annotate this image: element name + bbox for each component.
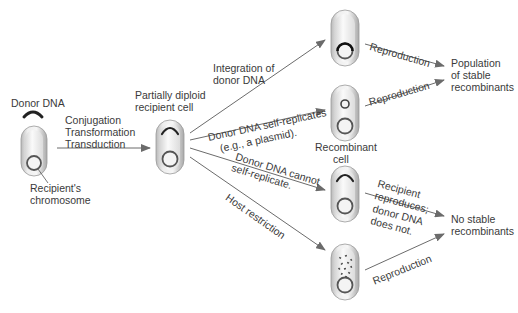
chromosome-icon (338, 199, 353, 214)
plasmid-icon (341, 100, 349, 108)
stable-outcome-label-1: Population (451, 57, 501, 69)
stable-outcome-label-2: of stable (451, 69, 491, 81)
donor-dna-label: Donor DNA (11, 97, 65, 109)
stable-outcome-label-3: recombinants (451, 81, 514, 93)
recombinant-cell-label-1: Recombinant (315, 141, 377, 153)
chromosome-label-2: chromosome (30, 194, 91, 206)
unstable-outcome-label-2: recombinants (451, 225, 514, 237)
partial-diploid-label-2: recipient cell (135, 101, 193, 113)
integration-label-2: donor DNA (213, 74, 265, 86)
chromosome-icon (338, 278, 353, 293)
unstable-outcome-label-1: No stable (451, 213, 495, 225)
integrated-cell (331, 10, 359, 66)
chromosome-label-1: Recipient's (30, 182, 81, 194)
recombinant-cell-label-2: cell (333, 153, 349, 165)
partial-diploid-cell (156, 120, 184, 174)
plasmid-cell (331, 85, 359, 141)
transfer-label-transformation: Transformation (65, 126, 135, 138)
bacterial-recombination-diagram: Donor DNA Conjugation Transformation Tra… (0, 0, 518, 313)
donor-dna-fragment-icon (24, 112, 42, 117)
transfer-label-transduction: Transduction (65, 138, 125, 150)
partial-diploid-label-1: Partially diploid (135, 89, 206, 101)
donor-cell (21, 112, 48, 183)
chromosome-icon (27, 156, 41, 170)
chromosome-icon (163, 152, 178, 167)
chromosome-icon (338, 119, 353, 134)
recombinant-cell (331, 166, 359, 222)
restricted-cell (331, 244, 359, 300)
integration-label-1: Integration of (213, 62, 274, 74)
transfer-label-conjugation: Conjugation (65, 114, 121, 126)
